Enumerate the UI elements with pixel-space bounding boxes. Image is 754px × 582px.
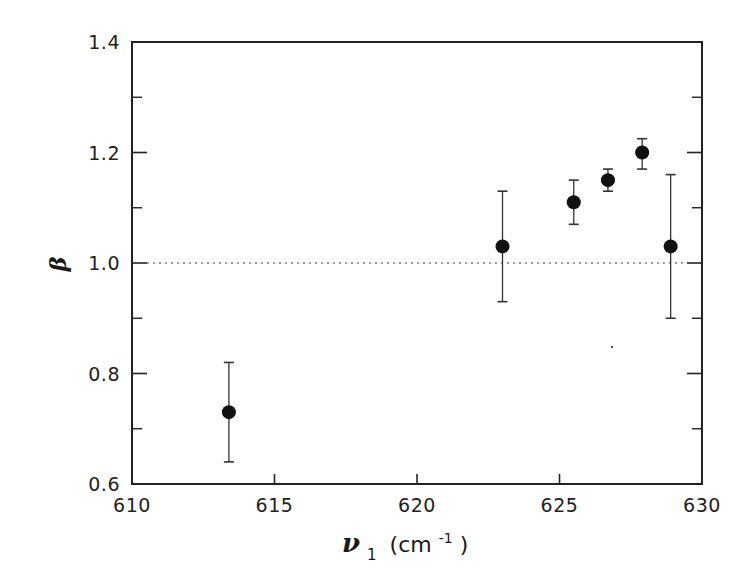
y-axis-label: β <box>45 256 71 272</box>
y-tick-label: 1.0 <box>88 252 120 274</box>
x-axis-title: ν 1 (cm -1 ) <box>342 523 468 565</box>
x-axis-unit-close: ) <box>460 532 469 557</box>
scatter-chart: 610615620625630 0.60.81.01.21.4 β ν 1 (c… <box>0 0 754 582</box>
marker-filled-circle <box>567 195 581 209</box>
x-tick-label: 620 <box>398 494 436 516</box>
scan-speck <box>611 346 613 348</box>
y-tick-label: 1.2 <box>88 142 120 164</box>
y-tick-label: 0.8 <box>88 363 120 385</box>
x-tick-label: 625 <box>541 494 579 516</box>
data-point <box>496 191 510 301</box>
x-axis-unit-exponent: -1 <box>439 530 453 546</box>
data-point <box>635 139 649 169</box>
x-tick-label: 630 <box>683 494 721 516</box>
x-tick-label: 610 <box>113 494 151 516</box>
y-tick-label: 0.6 <box>88 473 120 495</box>
marker-filled-circle <box>664 239 678 253</box>
y-axis-title: β <box>45 256 71 272</box>
data-point <box>601 169 615 191</box>
x-axis-symbol: ν <box>342 528 360 558</box>
data-point <box>222 362 236 461</box>
x-axis-ticks: 610615620625630 <box>113 474 721 516</box>
data-point <box>567 180 581 224</box>
x-axis-unit: (cm <box>390 532 432 557</box>
marker-filled-circle <box>222 405 236 419</box>
x-axis-label: ν 1 (cm -1 ) <box>342 523 468 565</box>
marker-filled-circle <box>635 146 649 160</box>
x-tick-label: 615 <box>256 494 294 516</box>
data-points <box>222 139 678 462</box>
data-point <box>664 175 678 319</box>
marker-filled-circle <box>496 239 510 253</box>
y-tick-label: 1.4 <box>88 31 120 53</box>
marker-filled-circle <box>601 173 615 187</box>
x-axis-subscript: 1 <box>367 546 377 564</box>
